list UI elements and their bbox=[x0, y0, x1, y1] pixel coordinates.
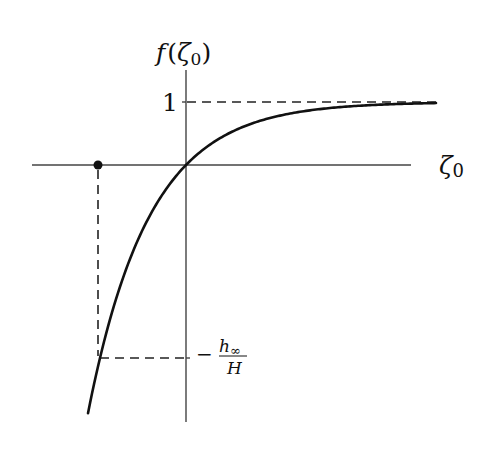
x-axis-label: ζ0 bbox=[439, 151, 464, 181]
tick-one-label: 1 bbox=[162, 88, 178, 117]
svg-text:−: − bbox=[196, 342, 213, 366]
function-curve bbox=[88, 103, 436, 413]
diagram-canvas: f(ζ0) 1 ζ0 − h∞ H bbox=[0, 0, 493, 453]
neg-value-label: − h∞ H bbox=[196, 336, 247, 378]
y-axis-label: f(ζ0) bbox=[154, 38, 211, 69]
svg-text:H: H bbox=[226, 358, 243, 378]
marked-point bbox=[94, 161, 103, 170]
svg-text:h∞: h∞ bbox=[219, 336, 241, 358]
